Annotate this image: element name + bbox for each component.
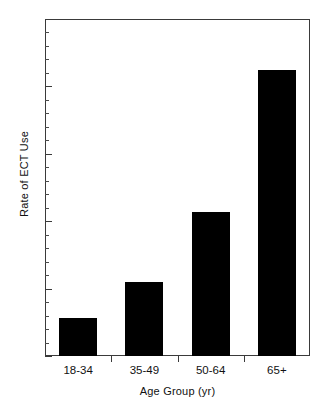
ect-use-bar-chart: Rate of ECT Use 0510152025 18-3435-4950-… (0, 0, 332, 411)
x-axis-tick (111, 356, 112, 362)
plot-area (45, 19, 310, 356)
bar (125, 282, 163, 356)
x-axis-tick (244, 356, 245, 362)
x-axis-tick-label: 18-34 (45, 364, 111, 376)
x-axis-title: Age Group (yr) (45, 385, 310, 397)
x-axis-tick-label: 35-49 (111, 364, 177, 376)
x-axis-tick-label: 65+ (244, 364, 310, 376)
bar (59, 318, 97, 356)
bar (258, 70, 296, 356)
x-axis-tick (178, 356, 179, 362)
bar (192, 212, 230, 356)
y-axis-major-tick (45, 356, 52, 357)
y-axis-title: Rate of ECT Use (18, 104, 30, 244)
x-axis-tick-label: 50-64 (178, 364, 244, 376)
